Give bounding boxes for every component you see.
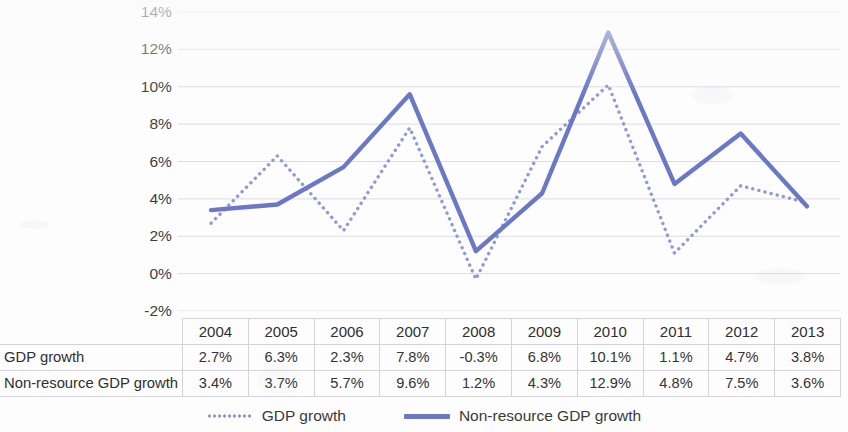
series-line-gdp-growth (211, 85, 807, 279)
legend-swatch-icon (207, 414, 253, 418)
series-line-non-resource-gdp-growth (211, 33, 807, 252)
y-axis-tick-label: -2% (96, 303, 172, 319)
table-cell: 7.8% (380, 345, 446, 371)
table-cell: 3.6% (775, 371, 841, 397)
y-axis-tick-label: 4% (96, 191, 172, 207)
table-header-row: 2004200520062007200820092010201120122013 (0, 319, 841, 345)
plot-svg (178, 12, 840, 311)
table-column-header: 2005 (248, 319, 314, 345)
table-column-header: 2007 (380, 319, 446, 345)
table-cell: 5.7% (314, 371, 380, 397)
legend-entry-non-resource-gdp-growth[interactable]: Non-resource GDP growth (404, 407, 641, 425)
table-cell: 1.1% (643, 345, 709, 371)
table-cell: 4.8% (643, 371, 709, 397)
table-column-header: 2012 (709, 319, 775, 345)
table-cell: 1.2% (446, 371, 512, 397)
table-cell: 4.7% (709, 345, 775, 371)
y-axis-tick-label: 12% (96, 41, 172, 57)
table-row: Non-resource GDP growth3.4%3.7%5.7%9.6%1… (0, 371, 841, 397)
y-axis-tick-label: 2% (96, 228, 172, 244)
y-axis-tick-label: 14% (96, 4, 172, 20)
table-cell: 3.8% (775, 345, 841, 371)
table-column-header: 2010 (577, 319, 643, 345)
table-row-label: Non-resource GDP growth (0, 371, 183, 397)
table-cell: 12.9% (577, 371, 643, 397)
table-cell: 3.4% (183, 371, 249, 397)
table-row: GDP growth2.7%6.3%2.3%7.8%-0.3%6.8%10.1%… (0, 345, 841, 371)
plot-area (178, 12, 840, 311)
table-body: GDP growth2.7%6.3%2.3%7.8%-0.3%6.8%10.1%… (0, 345, 841, 397)
table-cell: 4.3% (511, 371, 577, 397)
table-cell: 2.3% (314, 345, 380, 371)
data-table: 2004200520062007200820092010201120122013… (0, 318, 841, 397)
table-cell: 7.5% (709, 371, 775, 397)
table-cell: 9.6% (380, 371, 446, 397)
chart-legend: GDP growthNon-resource GDP growth (0, 402, 848, 430)
table-column-header: 2011 (643, 319, 709, 345)
table-header: 2004200520062007200820092010201120122013 (0, 319, 841, 345)
table-column-header: 2004 (183, 319, 249, 345)
table-column-header: 2013 (775, 319, 841, 345)
legend-label: GDP growth (262, 407, 346, 425)
table-column-header: 2009 (511, 319, 577, 345)
table-cell: 10.1% (577, 345, 643, 371)
table-cell: 2.7% (183, 345, 249, 371)
chart-figure: 14%12%10%8%6%4%2%0%-2% 20042005200620072… (0, 0, 848, 432)
y-axis-tick-label: 10% (96, 79, 172, 95)
gridlines (178, 12, 840, 311)
legend-swatch-icon (404, 414, 450, 419)
y-axis-tick-label: 8% (96, 116, 172, 132)
table-cell: 3.7% (248, 371, 314, 397)
legend-label: Non-resource GDP growth (459, 407, 641, 425)
legend-entry-gdp-growth[interactable]: GDP growth (207, 407, 346, 425)
data-table-wrapper: 2004200520062007200820092010201120122013… (0, 318, 841, 396)
table-cell: 6.8% (511, 345, 577, 371)
y-axis-tick-label: 6% (96, 154, 172, 170)
table-row-label: GDP growth (0, 345, 183, 371)
table-cell: -0.3% (446, 345, 512, 371)
y-axis: 14%12%10%8%6%4%2%0%-2% (96, 0, 172, 330)
table-cell: 6.3% (248, 345, 314, 371)
table-column-header: 2008 (446, 319, 512, 345)
y-axis-tick-label: 0% (96, 266, 172, 282)
table-column-header: 2006 (314, 319, 380, 345)
table-corner-cell (0, 319, 183, 345)
